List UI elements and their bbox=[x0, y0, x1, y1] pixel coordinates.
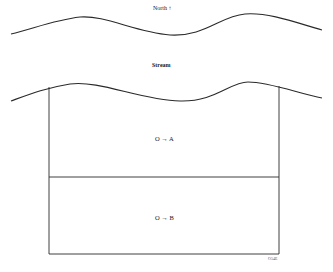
region-b-label: O → B bbox=[155, 214, 174, 221]
figure-code: O54E bbox=[268, 256, 277, 261]
south-bank-line bbox=[11, 82, 322, 101]
north-label: North ↑ bbox=[153, 5, 172, 11]
north-bank-line bbox=[11, 14, 322, 35]
region-a-label: O → A bbox=[155, 135, 174, 142]
stream-label: Stream bbox=[152, 62, 171, 68]
